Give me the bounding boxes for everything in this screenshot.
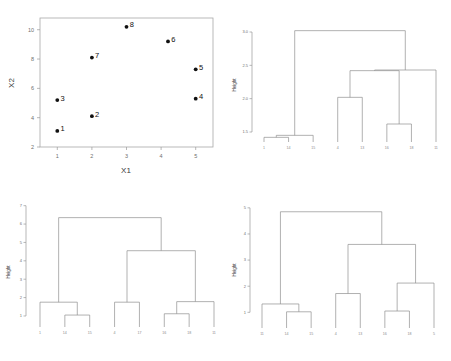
scatter-x-tick-label: 1 [56, 153, 59, 159]
dendrogram-tr-leaf-label: 1 [263, 146, 265, 150]
dendrogram-tr-leaf-label: 11 [434, 146, 438, 150]
dendrogram-br-leaf-labels: 11141541316185 [260, 332, 435, 336]
dendrogram-br-svg: 12345 11141541316185 Height [228, 182, 451, 361]
dendrogram-bl-leaf-label: 16 [162, 331, 166, 335]
scatter-points: 12345678 [55, 20, 203, 133]
scatter-x-axis-label: X1 [121, 166, 131, 175]
scatter-y-tick-label: 6 [31, 85, 34, 91]
dendrogram-bl-y-tick-label: 6 [20, 221, 23, 226]
scatter-point-label: 2 [95, 110, 99, 119]
dendrogram-br-y-tick-label: 1 [244, 310, 247, 315]
scatter-plot-svg: 12345246810 12345678 X1 X2 [0, 0, 228, 182]
dendrogram-bl-axis: 1234567 [20, 203, 26, 318]
dendrogram-bl-y-tick-label: 7 [20, 203, 23, 208]
scatter-y-tick-label: 4 [31, 115, 34, 121]
dendrogram-br-leaf-label: 15 [309, 332, 313, 336]
dendrogram-bl-leaf-labels: 11415417161811 [39, 331, 216, 335]
figure-canvas: 12345246810 12345678 X1 X2 1.52.02.53.0 … [0, 0, 451, 361]
dendrogram-tr-tree [264, 31, 436, 142]
scatter-plot-frame [40, 18, 213, 147]
scatter-y-tick-label: 8 [31, 56, 34, 62]
dendrogram-tr-leaf-label: 14 [287, 146, 291, 150]
scatter-point [194, 67, 198, 71]
scatter-x-tick-label: 2 [90, 153, 93, 159]
scatter-y-tick-label: 2 [31, 144, 34, 150]
dendrogram-br-leaf-label: 16 [383, 332, 387, 336]
dendrogram-tr-leaf-label: 18 [409, 146, 413, 150]
dendrogram-bl-y-tick-label: 5 [20, 240, 23, 245]
dendrogram-bl-y-axis-label: Height [6, 265, 11, 279]
dendrogram-bl-leaf-label: 15 [88, 331, 92, 335]
scatter-x-tick-label: 5 [194, 153, 197, 159]
dendrogram-tr-leaf-label: 15 [311, 146, 315, 150]
dendrogram-tr-y-tick-label: 1.5 [242, 129, 248, 134]
dendrogram-br-y-tick-label: 2 [244, 284, 247, 289]
dendrogram-tr-leaf-label: 4 [337, 146, 339, 150]
scatter-point [55, 129, 59, 133]
scatter-point [90, 114, 94, 118]
dendrogram-br-leaf-label: 18 [407, 332, 411, 336]
dendrogram-bl-y-tick-label: 3 [20, 277, 23, 282]
dendrogram-tr-leaf-label: 16 [385, 146, 389, 150]
dendrogram-br-tree [262, 212, 434, 328]
dendrogram-tr-y-axis-label: Height [232, 78, 237, 92]
dendrogram-bl-y-tick-label: 1 [20, 313, 23, 318]
dendrogram-br-leaf-label: 4 [335, 332, 337, 336]
scatter-point [166, 40, 170, 44]
dendrogram-bl-leaf-label: 4 [114, 331, 116, 335]
dendrogram-bl-y-tick-label: 2 [20, 295, 23, 300]
scatter-y-tick-label: 10 [28, 27, 34, 33]
scatter-point [55, 98, 59, 102]
dendrogram-panel-bottom-right: 12345 11141541316185 Height [228, 182, 451, 361]
dendrogram-tr-leaf-label: 13 [360, 146, 364, 150]
dendrogram-tr-leaf-labels: 11415413161811 [263, 146, 438, 150]
scatter-point [194, 97, 198, 101]
dendrogram-bl-leaf-label: 14 [63, 331, 67, 335]
scatter-point-label: 1 [61, 124, 65, 133]
dendrogram-panel-bottom-left: 1234567 11415417161811 Height [0, 182, 228, 361]
dendrogram-br-leaf-label: 5 [433, 332, 435, 336]
dendrogram-bl-leaf-label: 11 [212, 331, 216, 335]
scatter-plot-panel: 12345246810 12345678 X1 X2 [0, 0, 228, 182]
dendrogram-tr-y-tick-label: 2.0 [242, 96, 248, 101]
scatter-point-label: 8 [130, 20, 134, 29]
dendrogram-bl-leaf-label: 18 [187, 331, 191, 335]
dendrogram-bl-y-tick-label: 4 [20, 258, 23, 263]
dendrogram-br-axis: 12345 [244, 205, 250, 314]
dendrogram-br-y-axis-label: Height [232, 263, 237, 277]
dendrogram-tr-svg: 1.52.02.53.0 11415413161811 Height [228, 0, 451, 182]
scatter-x-tick-label: 3 [125, 153, 128, 159]
scatter-y-axis-label: X2 [7, 78, 16, 88]
dendrogram-br-y-tick-label: 5 [244, 205, 247, 210]
scatter-x-tick-label: 4 [160, 153, 163, 159]
scatter-point [90, 56, 94, 60]
dendrogram-bl-leaf-label: 1 [39, 331, 41, 335]
dendrogram-bl-tree [40, 218, 214, 327]
dendrogram-tr-axis: 1.52.02.53.0 [242, 29, 252, 134]
dendrogram-br-leaf-label: 11 [260, 332, 264, 336]
scatter-point-label: 7 [95, 51, 99, 60]
dendrogram-panel-top-right: 1.52.02.53.0 11415413161811 Height [228, 0, 451, 182]
dendrogram-bl-svg: 1234567 11415417161811 Height [0, 182, 228, 361]
scatter-axes: 12345246810 [28, 18, 213, 159]
dendrogram-tr-y-tick-label: 3.0 [242, 29, 248, 34]
scatter-point-label: 6 [171, 35, 175, 44]
dendrogram-bl-leaf-label: 17 [137, 331, 141, 335]
scatter-point-label: 5 [199, 63, 203, 72]
dendrogram-br-y-tick-label: 4 [244, 231, 247, 236]
dendrogram-br-leaf-label: 13 [358, 332, 362, 336]
scatter-point [125, 25, 129, 29]
scatter-point-label: 4 [199, 92, 203, 101]
dendrogram-tr-y-tick-label: 2.5 [242, 63, 248, 68]
dendrogram-br-leaf-label: 14 [285, 332, 289, 336]
dendrogram-br-y-tick-label: 3 [244, 257, 247, 262]
scatter-point-label: 3 [61, 94, 65, 103]
